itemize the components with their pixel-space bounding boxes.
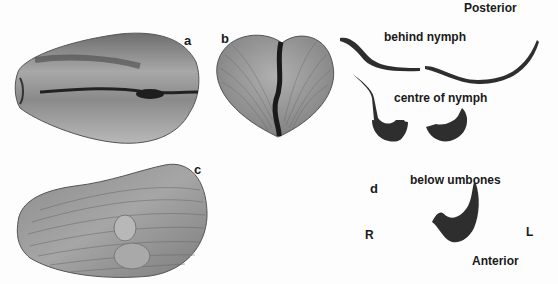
label-right: R xyxy=(365,229,374,241)
label-left: L xyxy=(526,226,533,238)
specimen-illustrations xyxy=(0,0,558,284)
panel-label-a: a xyxy=(184,34,191,47)
panel-label-b: b xyxy=(221,32,229,45)
shell-b-end-view xyxy=(217,35,334,137)
label-below-umbones: below umbones xyxy=(410,174,501,186)
section-below-umbones xyxy=(432,182,479,242)
panel-label-d: d xyxy=(370,182,378,195)
figure-plate: a b c d Posterior behind nymph centre of… xyxy=(0,0,558,284)
label-behind-nymph: behind nymph xyxy=(384,31,466,43)
label-posterior: Posterior xyxy=(464,2,517,14)
shell-c-lateral-view xyxy=(17,164,207,277)
section-behind-nymph xyxy=(340,38,539,84)
label-centre-of-nymph: centre of nymph xyxy=(394,92,487,104)
section-centre-of-nymph xyxy=(352,73,467,142)
label-anterior: Anterior xyxy=(472,255,519,267)
panel-label-c: c xyxy=(194,163,201,176)
shell-a-dorsal-view xyxy=(15,33,199,143)
